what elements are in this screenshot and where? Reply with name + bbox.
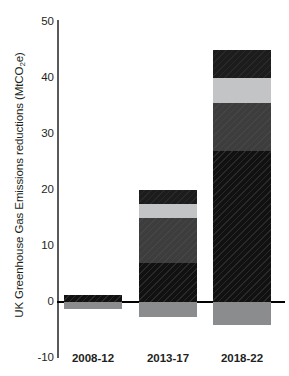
bar-2018-22-segment-mid-gray bbox=[213, 103, 271, 151]
bar-2008-12-segment-negative bbox=[64, 302, 122, 309]
bar-2013-17-segment-mid-gray bbox=[139, 218, 197, 263]
bar-2018-22-segment-negative bbox=[213, 302, 271, 326]
bar-2013-17[interactable] bbox=[139, 20, 197, 358]
x-tick-label-2018-22: 2018-22 bbox=[206, 352, 278, 364]
bar-2018-22[interactable] bbox=[213, 20, 271, 358]
bar-2018-22-segment-light-gray bbox=[213, 78, 271, 103]
chart-root: UK Greenhouse Gas Emissions reductions (… bbox=[0, 0, 289, 376]
bar-2008-12-segment-hatched-black bbox=[64, 295, 122, 302]
bar-2013-17-segment-negative bbox=[139, 302, 197, 318]
bar-2018-22-segment-dark-top bbox=[213, 50, 271, 78]
plot-area bbox=[0, 0, 289, 376]
x-tick-label-2013-17: 2013-17 bbox=[132, 352, 204, 364]
bar-2013-17-segment-dark-top bbox=[139, 190, 197, 204]
bar-2013-17-segment-hatched-black bbox=[139, 263, 197, 302]
bar-2008-12[interactable] bbox=[64, 20, 122, 358]
bar-2013-17-segment-light-gray bbox=[139, 204, 197, 218]
bar-2018-22-segment-hatched-black bbox=[213, 151, 271, 302]
x-tick-label-2008-12: 2008-12 bbox=[57, 352, 129, 364]
